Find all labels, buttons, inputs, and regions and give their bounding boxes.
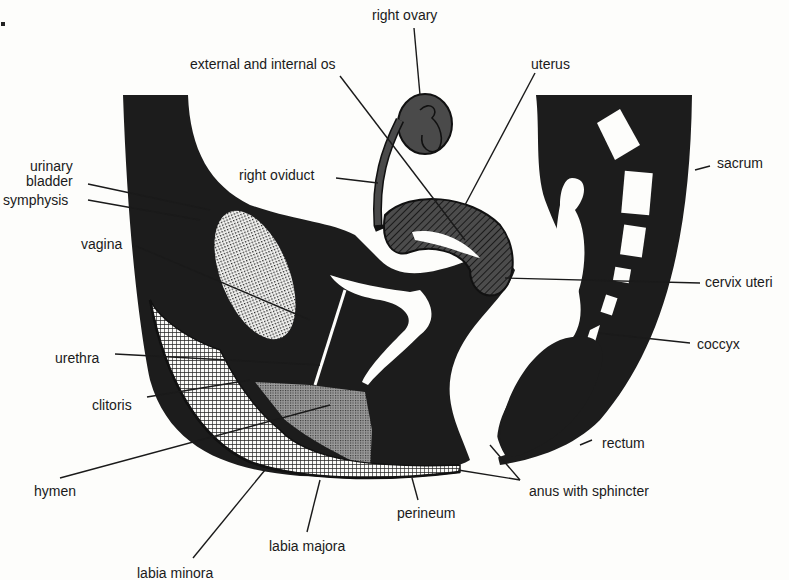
right-ovary (398, 94, 452, 154)
pelvis-diagram (0, 0, 789, 580)
label-vagina: vagina (81, 237, 122, 252)
label-right-oviduct: right oviduct (239, 168, 314, 183)
label-perineum: perineum (397, 506, 455, 521)
label-symphysis: symphysis (3, 193, 68, 208)
label-uterus: uterus (531, 57, 570, 72)
label-rectum: rectum (602, 436, 645, 451)
label-labia-minora: labia minora (137, 566, 213, 580)
label-urethra: urethra (55, 351, 99, 366)
label-anus-with-sphincter: anus with sphincter (529, 484, 649, 499)
label-coccyx: coccyx (697, 337, 740, 352)
label-sacrum: sacrum (717, 156, 763, 171)
label-right-ovary: right ovary (372, 8, 437, 23)
label-cervix-uteri: cervix uteri (705, 275, 773, 290)
label-labia-majora: labia majora (269, 539, 345, 554)
label-hymen: hymen (34, 484, 76, 499)
label-urinary-bladder: urinary bladder (26, 159, 73, 189)
label-external-and-internal-os: external and internal os (190, 57, 336, 72)
label-clitoris: clitoris (92, 398, 132, 413)
